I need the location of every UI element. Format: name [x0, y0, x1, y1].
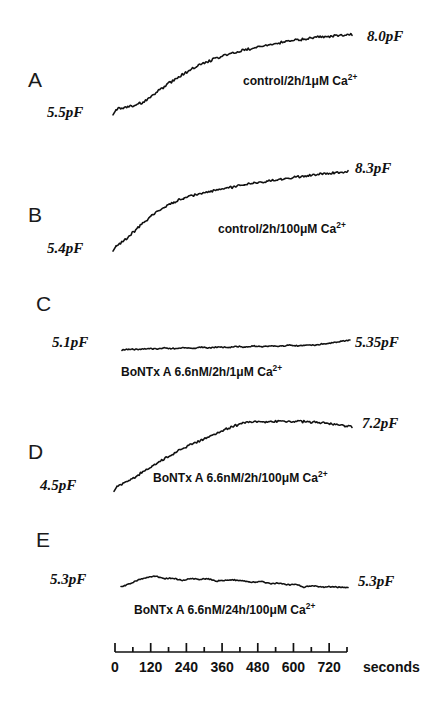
panel-e-trace — [0, 0, 447, 705]
axis-tick-label: 720 — [317, 659, 340, 675]
axis-tick-label: 480 — [246, 659, 269, 675]
axis-tick-label: 600 — [282, 659, 305, 675]
axis-tick-label: 0 — [111, 659, 119, 675]
axis-tick-label: 240 — [175, 659, 198, 675]
axis-tick-label: 360 — [210, 659, 233, 675]
axis-tick-label: 120 — [139, 659, 162, 675]
axis-unit-label: seconds — [363, 659, 420, 675]
capacitance-figure: A5.5pF8.0pFcontrol/2h/1μM Ca2+B5.4pF8.3p… — [0, 0, 447, 705]
trace-line — [121, 576, 348, 588]
